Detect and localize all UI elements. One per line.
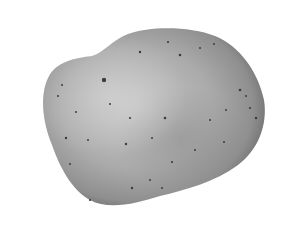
image-canvas bbox=[0, 0, 288, 230]
potato-illustration bbox=[0, 0, 288, 230]
potato bbox=[43, 28, 265, 205]
